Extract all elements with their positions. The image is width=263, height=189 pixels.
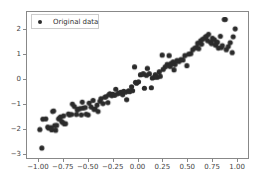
chart-legend: Original data [31,14,99,29]
x-tick-label: 0.50 [179,163,195,171]
x-tick-mark [88,159,89,162]
x-tick-label: 0.25 [155,163,171,171]
y-tick-label: −3 [11,150,21,158]
x-tick-mark [187,159,188,162]
y-tick-mark [23,29,26,30]
x-tick-label: −0.25 [102,163,123,171]
x-tick-label: −1.00 [27,163,48,171]
scatter-points-canvas [27,12,248,158]
x-tick-mark [237,159,238,162]
y-tick-mark [23,79,26,80]
plot-axes-area [26,11,249,159]
y-tick-label: 1 [17,50,21,58]
legend-entry-label: Original data [53,18,98,26]
y-tick-mark [23,104,26,105]
y-tick-mark [23,54,26,55]
x-tick-mark [38,159,39,162]
x-tick-label: −0.75 [52,163,73,171]
x-tick-label: 1.00 [229,163,245,171]
y-tick-mark [23,129,26,130]
x-tick-mark [63,159,64,162]
y-tick-mark [23,154,26,155]
x-tick-label: −0.50 [77,163,98,171]
y-tick-label: −2 [11,125,21,133]
x-tick-mark [212,159,213,162]
x-tick-mark [113,159,114,162]
x-tick-mark [162,159,163,162]
x-tick-label: 0.75 [204,163,220,171]
scatter-plot-figure: −1.00−0.75−0.50−0.250.000.250.500.751.00… [0,0,263,189]
y-tick-label: −1 [11,100,21,108]
scatter-marker-icon [38,20,42,24]
x-tick-label: 0.00 [130,163,146,171]
y-tick-label: 0 [17,75,21,83]
x-tick-mark [138,159,139,162]
y-tick-label: 2 [17,25,21,33]
